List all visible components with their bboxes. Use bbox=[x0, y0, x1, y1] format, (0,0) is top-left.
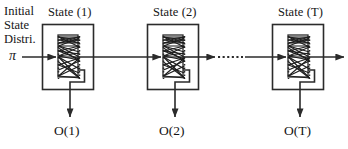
state-title-2: State (2) bbox=[153, 6, 197, 20]
initial-distribution-line-2: State bbox=[4, 19, 29, 33]
trellis-glyph-T bbox=[289, 36, 310, 79]
state-title-T: State (T) bbox=[278, 6, 323, 20]
stage-1-group bbox=[22, 25, 161, 118]
stage-2-group bbox=[148, 25, 216, 118]
hmm-trellis-figure: Initial State Distri. π State (1) State … bbox=[0, 0, 348, 149]
stage-T-group bbox=[273, 25, 345, 118]
trellis-glyph-1 bbox=[59, 36, 80, 79]
observation-label-T: O(T) bbox=[284, 124, 311, 139]
pi-symbol: π bbox=[9, 48, 16, 63]
state-title-1: State (1) bbox=[48, 6, 92, 20]
observation-label-2: O(2) bbox=[159, 124, 185, 139]
initial-distribution-line-1: Initial bbox=[4, 5, 34, 19]
observation-label-1: O(1) bbox=[54, 124, 80, 139]
initial-distribution-line-3: Distri. bbox=[4, 33, 36, 47]
trellis-glyph-2 bbox=[164, 36, 185, 79]
